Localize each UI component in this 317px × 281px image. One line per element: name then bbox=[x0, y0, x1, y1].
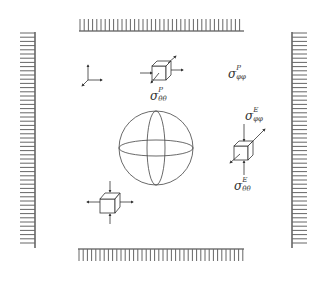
superscript: E bbox=[253, 107, 258, 114]
label-sigma-theta-theta-P: σPθθ bbox=[150, 88, 170, 104]
sigma-symbol: σ bbox=[234, 179, 242, 193]
stress-cube-right bbox=[230, 124, 265, 175]
subscript: θθ bbox=[158, 96, 166, 103]
sphere bbox=[119, 111, 193, 185]
sigma-symbol: σ bbox=[150, 89, 158, 103]
right-boundary-load bbox=[292, 32, 307, 248]
subscript: φφ bbox=[253, 116, 263, 123]
superscript: P bbox=[236, 65, 241, 72]
superscript: E bbox=[242, 177, 247, 184]
diagram-canvas bbox=[0, 0, 317, 281]
stress-cube-bottom-left bbox=[87, 181, 133, 224]
subscript: φφ bbox=[236, 74, 246, 81]
sigma-symbol: σ bbox=[245, 109, 253, 123]
left-boundary-load bbox=[20, 32, 35, 248]
superscript: P bbox=[158, 87, 163, 94]
top-boundary-load bbox=[79, 19, 244, 31]
stress-cube-top bbox=[140, 56, 183, 83]
subscript: θθ bbox=[242, 186, 250, 193]
label-sigma-theta-theta-E: σEθθ bbox=[234, 178, 254, 194]
label-sigma-phi-phi-P: σPφφ bbox=[228, 66, 248, 82]
label-sigma-phi-phi-E: σEφφ bbox=[245, 108, 265, 124]
sigma-symbol: σ bbox=[228, 67, 236, 81]
coordinate-axes-icon bbox=[82, 65, 102, 86]
bottom-boundary-load bbox=[78, 249, 244, 261]
